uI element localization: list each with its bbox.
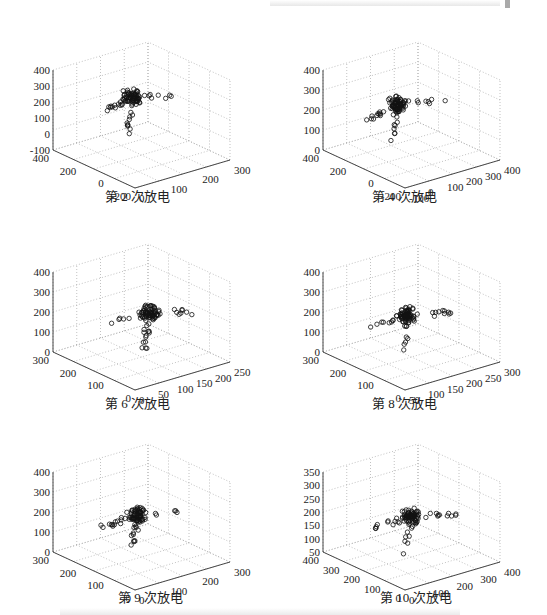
- svg-text:400: 400: [304, 266, 321, 278]
- svg-text:300: 300: [34, 486, 51, 498]
- caption-discharge-4: 第 4 次放电: [372, 186, 437, 205]
- svg-text:300: 300: [34, 80, 51, 92]
- svg-text:300: 300: [304, 479, 321, 491]
- svg-text:200: 200: [34, 96, 51, 108]
- svg-text:400: 400: [504, 566, 521, 578]
- svg-text:100: 100: [87, 379, 104, 391]
- svg-text:200: 200: [330, 367, 347, 379]
- svg-text:250: 250: [304, 493, 321, 505]
- svg-text:400: 400: [33, 152, 50, 164]
- svg-text:300: 300: [33, 354, 50, 366]
- svg-text:400: 400: [34, 466, 51, 478]
- svg-text:300: 300: [234, 164, 251, 176]
- svg-text:300: 300: [234, 566, 251, 578]
- svg-text:100: 100: [364, 583, 381, 595]
- caption-discharge-8: 第 8 次放电: [372, 393, 437, 412]
- svg-text:300: 300: [33, 554, 50, 566]
- svg-text:300: 300: [303, 354, 320, 366]
- svg-text:100: 100: [304, 124, 321, 136]
- svg-text:100: 100: [304, 326, 321, 338]
- svg-text:200: 200: [60, 165, 77, 177]
- svg-text:400: 400: [303, 554, 320, 566]
- svg-text:200: 200: [304, 506, 321, 518]
- caption-discharge-6: 第 6 次放电: [105, 393, 170, 412]
- svg-text:200: 200: [304, 104, 321, 116]
- svg-text:300: 300: [480, 573, 497, 585]
- svg-text:200: 200: [34, 306, 51, 318]
- svg-text:400: 400: [304, 64, 321, 76]
- svg-text:100: 100: [447, 181, 464, 193]
- svg-text:350: 350: [304, 466, 321, 478]
- svg-text:200: 200: [60, 567, 77, 579]
- svg-text:300: 300: [34, 286, 51, 298]
- svg-text:200: 200: [466, 377, 483, 389]
- svg-text:150: 150: [304, 519, 321, 531]
- svg-text:300: 300: [485, 170, 502, 182]
- svg-text:200: 200: [202, 173, 219, 185]
- svg-text:100: 100: [304, 533, 321, 545]
- svg-text:0: 0: [98, 177, 104, 189]
- svg-text:200: 200: [202, 575, 219, 587]
- svg-text:150: 150: [447, 383, 464, 395]
- svg-text:200: 200: [60, 367, 77, 379]
- svg-text:200: 200: [344, 573, 361, 585]
- caption-discharge-9: 第 9 次放电: [118, 587, 183, 606]
- plot-discharge-10: 3503002502001501005040030020010000100200…: [280, 420, 547, 615]
- figure-caption-cutoff: [60, 608, 460, 615]
- caption-discharge-10: 第 10 次放电: [380, 587, 452, 606]
- svg-text:200: 200: [466, 175, 483, 187]
- svg-text:200: 200: [304, 306, 321, 318]
- svg-text:200: 200: [34, 506, 51, 518]
- svg-text:400: 400: [34, 266, 51, 278]
- svg-text:300: 300: [504, 366, 521, 378]
- header-text-cutoff: [270, 0, 500, 6]
- caption-discharge-2: 第 2 次放电: [105, 186, 170, 205]
- svg-text:300: 300: [323, 564, 340, 576]
- plot-discharge-9: 400300200100030020010000100200300: [10, 420, 283, 615]
- svg-text:250: 250: [485, 372, 502, 384]
- svg-text:100: 100: [87, 579, 104, 591]
- svg-text:100: 100: [34, 526, 51, 538]
- svg-text:300: 300: [304, 84, 321, 96]
- svg-text:100: 100: [171, 183, 188, 195]
- plot-discharge-6: 40030020010003002001000050100150200250: [10, 220, 283, 420]
- svg-text:150: 150: [196, 377, 213, 389]
- svg-text:200: 200: [330, 165, 347, 177]
- header-marker: [505, 0, 510, 8]
- svg-text:300: 300: [304, 286, 321, 298]
- svg-text:100: 100: [34, 326, 51, 338]
- svg-text:0: 0: [45, 128, 51, 140]
- svg-text:400: 400: [303, 152, 320, 164]
- svg-text:400: 400: [504, 164, 521, 176]
- svg-text:100: 100: [34, 112, 51, 124]
- svg-text:200: 200: [215, 372, 232, 384]
- plot-discharge-8: 4003002001000300200100050100150200250300: [280, 220, 547, 420]
- svg-text:100: 100: [177, 383, 194, 395]
- svg-text:250: 250: [234, 366, 251, 378]
- svg-text:100: 100: [357, 379, 374, 391]
- svg-text:400: 400: [34, 64, 51, 76]
- svg-text:200: 200: [457, 580, 474, 592]
